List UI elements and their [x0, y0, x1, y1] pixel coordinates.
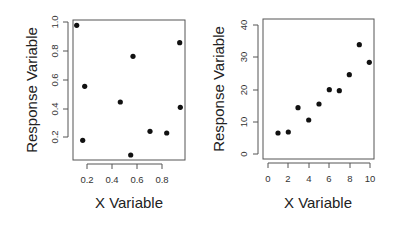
data-point — [347, 72, 352, 77]
right-x-axis-title: X Variable — [284, 194, 352, 211]
data-point — [130, 54, 135, 59]
left-y-axis — [63, 22, 68, 137]
right-ytick-label: 20 — [238, 85, 249, 96]
right-plot: 0 10 20 30 40 0 2 4 6 8 10 X Variable Re… — [210, 19, 375, 211]
data-point — [337, 88, 342, 93]
left-xtick-label: 0.8 — [155, 174, 168, 185]
left-plot-box — [73, 20, 185, 160]
right-xtick-label: 2 — [285, 173, 290, 184]
right-xtick-label: 6 — [326, 173, 331, 184]
data-point — [118, 99, 123, 104]
data-point — [367, 60, 372, 65]
right-xtick-label: 10 — [365, 173, 376, 184]
data-point — [306, 117, 311, 122]
data-point — [357, 42, 362, 47]
data-point — [80, 138, 85, 143]
data-point — [128, 152, 133, 157]
left-xtick-label: 0.6 — [130, 174, 143, 185]
data-point — [164, 130, 169, 135]
left-y-axis-title: Response Variable — [23, 27, 40, 153]
left-xtick-label: 0.4 — [105, 174, 118, 185]
left-ytick-label: 1.0 — [49, 15, 60, 28]
right-ytick-label: 0 — [238, 151, 249, 156]
left-ytick-label: 0.2 — [49, 130, 60, 143]
data-point — [177, 40, 182, 45]
right-ytick-label: 30 — [238, 52, 249, 63]
right-ytick-label: 10 — [238, 117, 249, 128]
right-y-axis — [253, 25, 258, 154]
right-y-axis-title: Response Variable — [210, 26, 227, 152]
right-plot-box — [263, 19, 374, 159]
right-ytick-label: 40 — [238, 20, 249, 31]
data-point — [286, 129, 291, 134]
right-xtick-label: 0 — [265, 173, 270, 184]
left-x-axis-title: X Variable — [95, 194, 163, 211]
left-ytick-label: 0.8 — [49, 44, 60, 57]
left-points — [74, 23, 183, 158]
left-ytick-label: 0.6 — [49, 73, 60, 86]
figure: 0.2 0.4 0.6 0.8 1.0 0.2 0.4 0.6 0.8 X Va… — [0, 0, 400, 225]
left-ytick-label: 0.4 — [49, 102, 60, 115]
data-point — [147, 129, 152, 134]
data-point — [327, 87, 332, 92]
data-point — [316, 101, 321, 106]
data-point — [178, 105, 183, 110]
left-plot: 0.2 0.4 0.6 0.8 1.0 0.2 0.4 0.6 0.8 X Va… — [23, 15, 185, 211]
data-point — [295, 105, 300, 110]
right-x-axis — [268, 163, 370, 168]
left-xtick-label: 0.2 — [80, 174, 93, 185]
data-point — [275, 130, 280, 135]
right-points — [275, 42, 372, 135]
data-point — [74, 23, 79, 28]
right-xtick-label: 4 — [306, 173, 311, 184]
data-point — [82, 84, 87, 89]
left-x-axis — [87, 164, 162, 169]
right-xtick-label: 8 — [347, 173, 352, 184]
